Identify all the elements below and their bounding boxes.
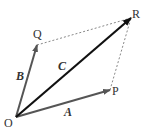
point-label-q: Q	[33, 27, 42, 41]
point-label-r: R	[132, 7, 140, 21]
point-label-p: P	[112, 84, 119, 98]
vector-label-a: A	[63, 105, 72, 119]
vector-label-b: B	[15, 69, 24, 83]
vector-diagram: O P Q R A B C	[0, 0, 153, 136]
vector-label-c: C	[58, 59, 67, 73]
dashed-edge-p-r	[110, 18, 131, 90]
diagram-svg: O P Q R A B C	[0, 0, 153, 136]
point-label-o: O	[4, 116, 13, 130]
